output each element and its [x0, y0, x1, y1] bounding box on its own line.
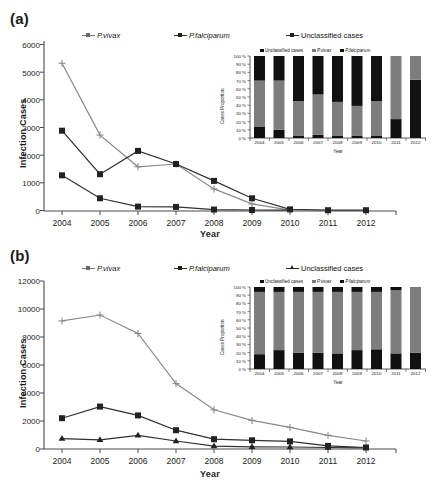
inset-b-bar-2010 — [371, 287, 382, 369]
inset-b-bars — [254, 287, 421, 369]
inset-a-xtick-2012: 2012 — [404, 140, 427, 145]
inset-a-bar-2009 — [352, 56, 363, 138]
inset-b-bar-2011 — [391, 287, 402, 369]
inset-b-xtick-2012: 2012 — [404, 371, 427, 376]
panel-a: (a) P.vivax P.falciparum Unclassified ca… — [0, 0, 438, 243]
inset-a-bar-2011 — [391, 56, 402, 138]
inset-b-bar-2007 — [313, 287, 324, 369]
panel-b-x-tickmarks — [62, 449, 396, 453]
inset-a-bar-2010 — [371, 56, 382, 138]
inset-a-bar-2012 — [410, 56, 421, 138]
inset-b-bar-2008 — [332, 287, 343, 369]
inset-a-bar-2004 — [254, 56, 265, 138]
inset-b-bar-2004 — [254, 287, 265, 369]
panel-a-inset: Unclassified cases P.vivax P.falciparum … — [218, 48, 432, 160]
panel-a-inset-x-title: Year — [298, 149, 378, 154]
inset-b-bar-2006 — [293, 287, 304, 369]
inset-a-bar-2005 — [274, 56, 285, 138]
inset-a-bar-2006 — [293, 56, 304, 138]
panel-b-inset: Unclassified cases P.vivax P.falciparum … — [218, 279, 432, 391]
inset-b-bar-2005 — [274, 287, 285, 369]
figure-root: (a) P.vivax P.falciparum Unclassified ca… — [0, 0, 438, 486]
panel-a-x-tickmarks — [62, 211, 396, 215]
panel-b: (b) P.vivax P.falciparum Unclassified ca… — [0, 243, 438, 486]
inset-b-bar-2012 — [410, 287, 421, 369]
panel-a-y-tickmarks — [40, 45, 44, 211]
inset-a-bar-2008 — [332, 56, 343, 138]
panel-b-inset-x-title: Year — [298, 380, 378, 385]
inset-a-bars — [254, 56, 421, 138]
inset-a-bar-2007 — [313, 56, 324, 138]
inset-b-bar-2009 — [352, 287, 363, 369]
panel-b-y-tickmarks — [40, 281, 44, 449]
